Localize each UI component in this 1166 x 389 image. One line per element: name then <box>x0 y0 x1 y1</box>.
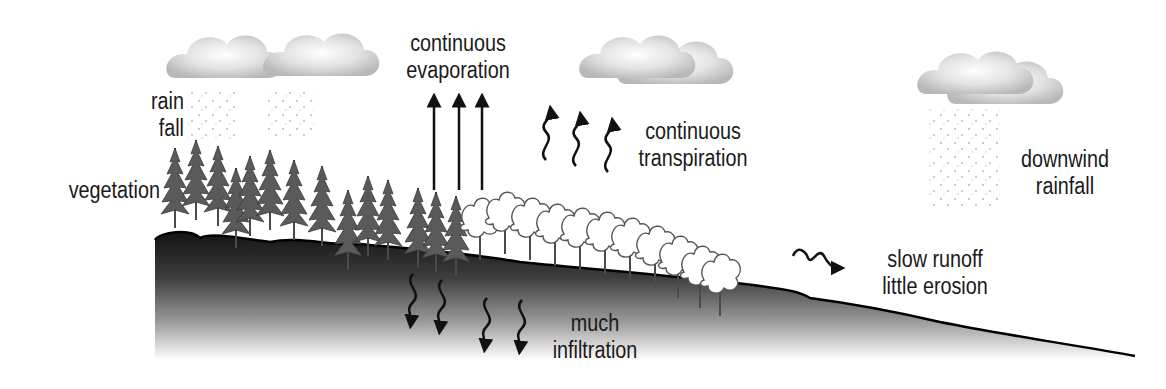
label-evaporation-line1: continuous <box>391 30 525 57</box>
evaporation-arrows <box>434 100 482 190</box>
label-rainfall: rain fall <box>136 88 184 142</box>
label-infiltration-line2: infiltration <box>544 337 645 364</box>
label-rainfall-line1: rain <box>136 88 184 115</box>
label-vegetation: vegetation <box>22 177 160 204</box>
label-transpiration-line2: transpiration <box>629 145 758 172</box>
label-rainfall-line2: fall <box>136 115 184 142</box>
label-vegetation-text: vegetation <box>22 177 160 204</box>
label-evaporation: continuous evaporation <box>391 30 525 84</box>
runoff-arrow <box>793 250 838 268</box>
label-infiltration: much infiltration <box>544 310 645 364</box>
label-infiltration-line1: much <box>544 310 645 337</box>
cloud-icon-center <box>579 36 733 84</box>
label-runoff-line2: little erosion <box>871 273 1000 300</box>
label-evaporation-line2: evaporation <box>391 57 525 84</box>
diagram-canvas: rain fall vegetation continuous evaporat… <box>0 0 1166 389</box>
transpiration-arrows <box>543 112 613 172</box>
cloud-icon-left-2 <box>263 34 379 136</box>
label-downwind-line1: downwind <box>1018 146 1113 173</box>
label-transpiration: continuous transpiration <box>629 118 758 172</box>
label-runoff: slow runoff little erosion <box>871 246 1000 300</box>
label-runoff-line1: slow runoff <box>871 246 1000 273</box>
label-transpiration-line1: continuous <box>629 118 758 145</box>
label-downwind-line2: rainfall <box>1018 173 1113 200</box>
label-downwind-rainfall: downwind rainfall <box>1018 146 1113 200</box>
